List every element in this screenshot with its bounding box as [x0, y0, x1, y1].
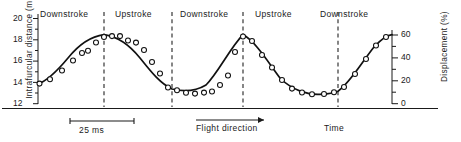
- phase-label-upstroke-1: Upstroke: [115, 9, 152, 19]
- right-axis-minor-ticks: [392, 46, 396, 92]
- left-tick-label-14: 14: [13, 77, 22, 87]
- left-axis-title: Intrafurcular distance (mm): [25, 0, 34, 101]
- phase-label-downstroke-2: Downstroke: [180, 9, 228, 19]
- right-tick-label-0: 0: [401, 98, 406, 108]
- right-tick-label-20: 20: [401, 75, 410, 85]
- figure-panel: Intrafurcular distance (mm) Displacement…: [0, 0, 461, 142]
- chart-canvas: [0, 0, 461, 142]
- time-axis-label: Time: [324, 123, 344, 133]
- phase-label-upstroke-2: Upstroke: [255, 9, 292, 19]
- data-point-markers: [37, 34, 389, 97]
- right-tick-label-40: 40: [401, 52, 410, 62]
- phase-label-downstroke-1: Downstroke: [40, 9, 88, 19]
- phase-label-downstroke-3: Downstroke: [320, 9, 368, 19]
- scale-bar: [70, 118, 134, 124]
- left-tick-label-16: 16: [13, 55, 22, 65]
- scale-bar-label: 25 ms: [79, 125, 104, 135]
- left-tick-label-18: 18: [13, 34, 22, 44]
- flight-direction-label: Flight direction: [196, 123, 258, 133]
- right-tick-label-60: 60: [401, 29, 410, 39]
- data-curve: [38, 35, 392, 95]
- right-axis-title: Displacement (%): [440, 0, 449, 95]
- left-tick-label-12: 12: [13, 98, 22, 108]
- left-tick-label-20: 20: [13, 13, 22, 23]
- left-axis-major-ticks: [33, 19, 38, 104]
